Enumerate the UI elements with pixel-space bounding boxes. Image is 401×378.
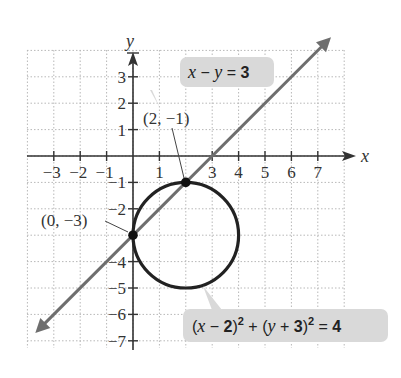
x-tick-label: 4 [234,163,243,182]
x-tick-label: 6 [287,163,296,182]
y-tick-label: −7 [108,332,127,351]
x-tick-label: 5 [261,163,270,182]
circle-equation-label: (x − 2)2 + (y + 3)2 = 4 [192,315,341,336]
grid [27,50,345,348]
intersection-point [181,178,191,188]
intersection-point [128,230,138,240]
y-tick-label: −1 [108,173,126,192]
y-tick-label: 3 [118,68,127,87]
y-tick-label: −6 [108,305,126,324]
y-tick-label: 2 [118,94,127,113]
leader-line [105,221,128,232]
coordinate-plane: xy−3−2−1134567321−1−2−4−5−6−7 x − y = 3 … [0,0,401,378]
line-equation-label: x − y = 3 [187,62,249,82]
circle-equation-callout: (x − 2)2 + (y + 3)2 = 4 [183,286,388,342]
point-label-text: (2, −1) [143,109,189,128]
y-tick-label: −5 [108,279,126,298]
figure: xy−3−2−1134567321−1−2−4−5−6−7 x − y = 3 … [0,0,401,378]
x-axis-label: x [360,146,369,166]
x-tick-label: 7 [314,163,323,182]
y-tick-label: 1 [118,121,127,140]
x-tick-label: 1 [155,163,164,182]
x-tick-label: 3 [208,163,217,182]
callout-pointer [203,286,222,310]
y-tick-label: −2 [108,200,126,219]
y-axis-label: y [124,31,134,51]
point-label-2-neg1: (2, −1) [143,109,189,178]
x-tick-label: −3 [43,163,61,182]
point-label-text: (0, −3) [41,211,87,230]
callout-pointer [150,90,160,108]
x-tick-label: −2 [69,163,87,182]
leader-line [172,128,184,178]
